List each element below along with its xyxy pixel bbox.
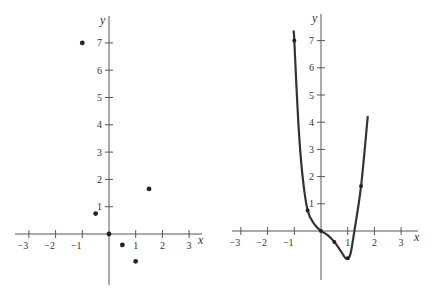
x-tick-label: 1: [345, 237, 350, 248]
x-tick-label: −1: [283, 237, 294, 248]
x-tick-label: −2: [44, 240, 55, 251]
y-tick-label: 3: [309, 144, 314, 155]
x-axis-label: x: [197, 233, 204, 247]
x-tick-label: 2: [160, 240, 165, 251]
x-axis-label: x: [413, 230, 420, 244]
y-tick-label: 6: [309, 62, 314, 73]
data-point: [80, 41, 85, 46]
x-tick-label: 1: [133, 240, 138, 251]
y-tick-label: 7: [97, 37, 102, 48]
y-tick-label: 1: [97, 201, 102, 212]
x-tick-label: −1: [71, 240, 82, 251]
data-point: [107, 232, 112, 237]
y-tick-label: 7: [309, 35, 314, 46]
x-tick-label: 3: [399, 237, 404, 248]
y-tick-label: 4: [97, 119, 102, 130]
x-tick-label: −3: [18, 240, 29, 251]
x-tick-label: −3: [230, 237, 241, 248]
y-tick-label: 5: [97, 92, 102, 103]
data-point: [147, 187, 152, 192]
data-point: [346, 256, 350, 260]
y-tick-label: 1: [309, 198, 314, 209]
y-tick-label: 6: [97, 65, 102, 76]
x-tick-label: −2: [256, 237, 267, 248]
data-point: [133, 259, 138, 264]
y-tick-label: 5: [309, 90, 314, 101]
data-point: [332, 240, 336, 244]
data-point: [359, 184, 363, 188]
y-tick-label: 3: [97, 147, 102, 158]
data-point: [319, 229, 323, 233]
y-tick-label: 2: [309, 171, 314, 182]
data-point: [292, 39, 296, 43]
scatter-plot: −3−2−11231234567yx: [15, 13, 204, 285]
fitted-curve: [294, 31, 368, 258]
figure: −3−2−11231234567yx −3−2−11231234567yx: [0, 0, 438, 298]
y-tick-label: 4: [309, 117, 314, 128]
data-point: [120, 243, 125, 248]
curve-plot: −3−2−11231234567yx: [230, 11, 420, 280]
x-tick-label: 2: [372, 237, 377, 248]
data-point: [306, 209, 310, 213]
y-tick-label: 2: [97, 174, 102, 185]
data-point: [93, 211, 98, 216]
y-axis-label: y: [99, 13, 106, 27]
y-axis-label: y: [311, 11, 318, 25]
x-tick-label: 3: [187, 240, 192, 251]
